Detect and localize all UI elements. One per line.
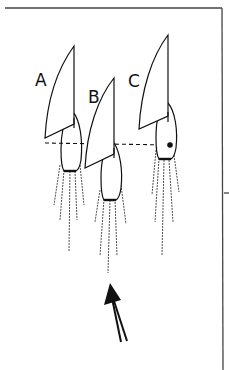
wind-arrow-icon (104, 283, 127, 342)
label-c: C (128, 71, 140, 91)
sail-a (45, 46, 74, 138)
sail-c (139, 35, 168, 129)
label-b: B (88, 87, 100, 107)
boat-a (45, 46, 82, 171)
sailing-diagram: A B C (0, 0, 229, 370)
boat-c (139, 35, 177, 159)
label-a: A (35, 70, 47, 90)
